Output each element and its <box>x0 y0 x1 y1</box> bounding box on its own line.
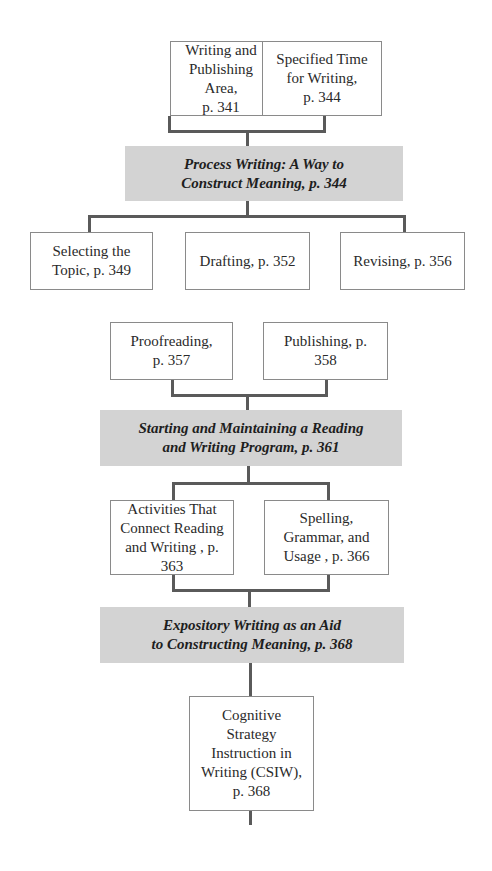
section-process-writing: Process Writing: A Way to Construct Mean… <box>125 146 403 201</box>
node-proofreading: Proofreading, p. 357 <box>110 322 233 380</box>
node-activities-connect-reading-writing: Activities That Connect Reading and Writ… <box>110 500 234 575</box>
node-revising: Revising, p. 356 <box>340 232 465 290</box>
node-csiw: Cognitive Strategy Instruction in Writin… <box>189 696 314 811</box>
connector <box>88 215 406 218</box>
connector <box>249 811 252 825</box>
connector <box>403 215 406 233</box>
node-spelling-grammar-usage: Spelling, Grammar, and Usage , p. 366 <box>264 500 389 575</box>
node-publishing: Publishing, p. 358 <box>263 322 388 380</box>
section-reading-writing-program: Starting and Maintaining a Reading and W… <box>100 410 402 466</box>
connector <box>246 394 249 410</box>
connector <box>246 130 249 146</box>
node-specified-time-for-writing: Specified Time for Writing, p. 344 <box>262 41 382 116</box>
connector <box>172 482 175 500</box>
connector <box>171 394 328 397</box>
connector <box>248 589 251 607</box>
connector <box>88 215 91 233</box>
node-selecting-topic: Selecting the Topic, p. 349 <box>30 232 153 290</box>
section-expository-writing: Expository Writing as an Aid to Construc… <box>100 607 404 663</box>
connector <box>327 482 330 500</box>
connector <box>172 589 330 592</box>
connector <box>172 482 330 485</box>
connector <box>249 663 252 697</box>
node-drafting: Drafting, p. 352 <box>185 232 310 290</box>
node-writing-publishing-area: Writing and Publishing Area, p. 341 <box>170 41 272 116</box>
